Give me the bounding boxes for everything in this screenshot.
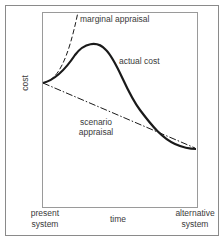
scenario-appraisal-label-line2: appraisal — [79, 127, 114, 137]
plot-area — [43, 13, 198, 208]
scenario-appraisal-label-line1: scenario — [80, 117, 112, 127]
marginal-appraisal-label: marginal appraisal — [80, 14, 150, 24]
y-axis-label: cost — [20, 75, 30, 91]
scenario-appraisal-line — [43, 83, 195, 148]
cost-time-diagram: marginal appraisal actual cost scenario … — [0, 0, 224, 243]
x-end-label-line2: system — [182, 219, 209, 229]
actual-cost-label: actual cost — [119, 56, 160, 66]
x-end-label-line1: alternative — [175, 208, 214, 218]
x-start-label-line2: system — [32, 219, 59, 229]
x-axis-label: time — [110, 214, 126, 224]
x-start-label-line1: present — [31, 208, 60, 218]
